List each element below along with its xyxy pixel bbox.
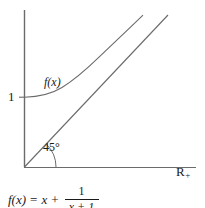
formula-denominator: x + 1 [66,201,97,208]
formula-lhs: f(x) [8,192,26,208]
formula-numerator: 1 [73,185,91,198]
y-axis-tick-label-1: 1 [8,90,15,103]
x-axis-label-letter: R [176,164,185,179]
formula-fraction: 1 x + 1 [65,185,99,208]
x-axis-label-positive-reals: R+ [176,165,190,180]
angle-label-45-degrees: 45° [43,141,60,153]
plot-canvas [0,0,205,208]
figure-container: 1 f(x) 45° R+ f(x) = x + 1 x + 1 [0,0,205,208]
formula-plus: + [51,192,58,208]
function-curve [25,15,144,97]
curve-label-fx: f(x) [44,76,61,88]
x-axis-label-subscript: + [185,170,190,180]
formula-term1: x [41,192,47,208]
formula-equals: = [30,192,37,208]
formula-caption: f(x) = x + 1 x + 1 [8,186,101,208]
